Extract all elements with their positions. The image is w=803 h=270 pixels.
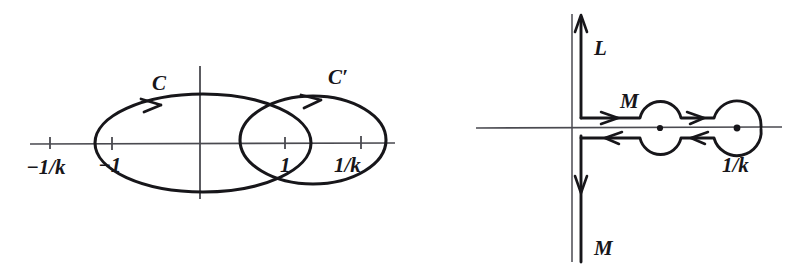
pole-dot-one <box>657 125 663 131</box>
label-contour-M-horizontal: M <box>619 89 640 113</box>
label-minus-one-over-k: −1/k <box>26 155 66 179</box>
pole-dot-one-over-k <box>734 125 741 132</box>
label-one-over-k: 1/k <box>334 153 361 177</box>
label-one: 1 <box>280 153 291 177</box>
left-panel: C C′ −1/k −1 1 1/k <box>26 65 395 199</box>
label-contour-C: C <box>152 71 167 95</box>
figure-svg: C C′ −1/k −1 1 1/k <box>0 0 803 270</box>
label-contour-M-down: M <box>593 236 614 260</box>
label-minus-one: −1 <box>98 153 121 177</box>
figure-container: C C′ −1/k −1 1 1/k <box>0 0 803 270</box>
label-one-over-k-right: 1/k <box>722 153 749 177</box>
right-panel: L M M 1/k <box>476 14 782 262</box>
contour-C-arrowhead-icon <box>141 99 161 112</box>
left-real-axis <box>30 143 395 144</box>
contour-M-lower-path <box>581 129 761 156</box>
contour-C-prime-path <box>240 96 386 184</box>
label-contour-L: L <box>593 36 607 60</box>
label-contour-C-prime: C′ <box>328 65 348 89</box>
